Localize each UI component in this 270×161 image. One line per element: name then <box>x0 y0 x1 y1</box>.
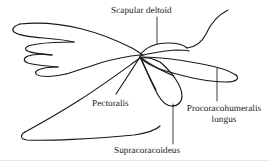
figure-bottom-rule <box>0 160 270 161</box>
supracoracoideus-shape-right <box>141 58 182 106</box>
diagram-canvas <box>0 0 270 161</box>
digit-three-outline <box>24 54 58 67</box>
label-supracoracoideus: Supracoracoideus <box>114 145 180 156</box>
scapular-deltoid-shape-lower <box>140 50 189 56</box>
label-procoracohumeralis-longus: Procoracohumeralis longus <box>178 103 270 125</box>
label-procoracohumeralis-line-1: Procoracohumeralis <box>187 103 261 113</box>
wing-leading-edge <box>20 23 143 55</box>
scapular-deltoid-shape <box>140 43 187 55</box>
fascicle-line-two <box>116 57 140 94</box>
digit-two-outline <box>26 42 74 55</box>
pectoralis-ventral-edge <box>21 126 160 140</box>
anatomical-figure: Scapular deltoid Pectoralis Procoracohum… <box>0 0 270 161</box>
supracoracoideus-shape-left <box>141 58 172 106</box>
label-procoracohumeralis-line-2: longus <box>212 114 237 124</box>
wing-trailing-edge <box>66 55 140 74</box>
digit-four-outline <box>36 67 66 76</box>
digit-one-outline <box>13 24 74 42</box>
scapula-contour <box>187 10 228 48</box>
label-pectoralis: Pectoralis <box>92 98 129 109</box>
label-scapular-deltoid: Scapular deltoid <box>111 5 172 16</box>
